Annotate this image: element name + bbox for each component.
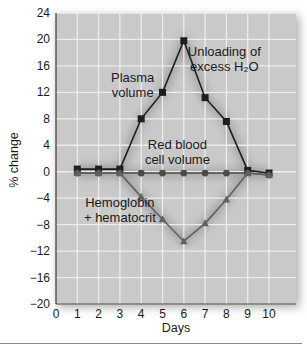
x-tick: 1 [74,307,81,321]
y-tick: 0 [43,165,50,179]
divider-rule [0,343,302,344]
y-tick-labels: 24201612840−4−8−12−16−20 [30,6,51,311]
y-tick: −8 [36,218,50,232]
data-point-square [202,94,209,101]
y-tick: 20 [37,32,51,46]
x-axis-label: Days [162,321,190,335]
data-point-circle [223,170,230,177]
data-point-square [159,89,166,96]
annotation-label: Unloading ofexcess H₂O [188,44,261,74]
y-tick: −12 [30,244,51,258]
y-tick: −20 [30,297,51,311]
y-tick: 8 [43,112,50,126]
data-point-circle [202,170,209,177]
annotation-label: Plasmavolume [111,70,155,100]
data-point-square [138,115,145,122]
y-tick: 16 [37,59,51,73]
x-tick: 0 [53,307,60,321]
y-tick: −16 [30,271,51,285]
data-point-circle [138,170,145,177]
x-tick: 9 [244,307,251,321]
y-axis-label: % change [7,132,21,188]
y-tick: −4 [36,191,50,205]
x-tick: 8 [223,307,230,321]
y-tick: 12 [37,85,51,99]
x-tick: 5 [159,307,166,321]
x-tick-labels: 012345678910 [53,307,276,321]
line-chart: 24201612840−4−8−12−16−20 012345678910 Pl… [0,0,307,350]
x-tick: 7 [202,307,209,321]
x-tick: 2 [95,307,102,321]
data-point-square [180,37,187,44]
x-tick: 4 [138,307,145,321]
data-point-circle [180,170,187,177]
annotation-label: Red bloodcell volume [145,137,210,167]
x-tick: 10 [262,307,276,321]
data-point-square [223,118,230,125]
x-tick: 3 [117,307,124,321]
data-point-circle [159,170,166,177]
x-tick: 6 [180,307,187,321]
y-tick: 24 [37,6,51,20]
annotation-label: Hemoglobin+ hematocrit [84,195,156,225]
y-tick: 4 [43,138,50,152]
